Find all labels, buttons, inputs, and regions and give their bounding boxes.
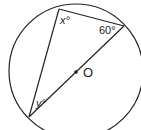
angle-60-label: 60° — [99, 24, 116, 36]
angle-x-label: x° — [59, 14, 71, 26]
center-label: O — [83, 65, 93, 80]
center-point — [74, 70, 78, 74]
circle — [9, 4, 141, 130]
circle-diagram: O x° 60° y° — [0, 0, 141, 130]
angle-y-label: y° — [35, 97, 47, 109]
